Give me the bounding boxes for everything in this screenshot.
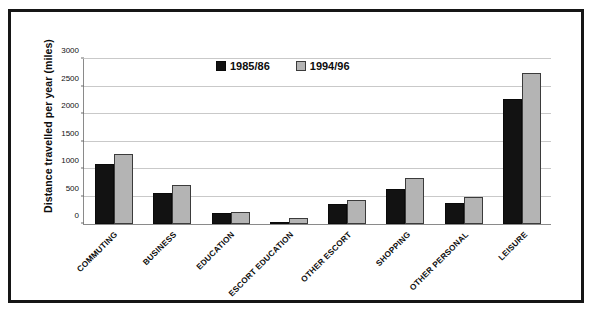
bar <box>405 178 424 224</box>
bar <box>328 204 347 224</box>
x-axis-tick-label: BUSINESS <box>141 230 178 267</box>
bar-groups <box>85 59 551 224</box>
y-tick-label: 2500 <box>61 73 79 82</box>
bar <box>445 203 464 224</box>
y-tick-label: 1000 <box>61 156 79 165</box>
x-axis-tick-label: COMMUTING <box>76 230 120 274</box>
bar <box>231 212 250 224</box>
bar-group <box>260 59 318 224</box>
bar-group <box>202 59 260 224</box>
y-tick-label: 3000 <box>61 46 79 55</box>
y-tick-label: 0 <box>75 211 79 220</box>
bar-group <box>435 59 493 224</box>
x-label-cell: OTHER ESCORT <box>318 228 377 308</box>
y-tick-mark <box>81 85 84 86</box>
chart-frame: Distance travelled per year (miles) 1985… <box>8 9 584 303</box>
x-axis-tick-label: SHOPPING <box>374 230 412 268</box>
bar <box>503 99 522 224</box>
bar <box>153 193 172 224</box>
plot-area: 050010001500200025003000 <box>83 59 551 225</box>
y-tick-mark <box>81 58 84 59</box>
bar <box>95 164 114 225</box>
y-tick-mark <box>81 140 84 141</box>
bar-group <box>318 59 376 224</box>
y-tick-label: 500 <box>66 183 79 192</box>
x-label-cell: LEISURE <box>494 228 553 308</box>
y-axis-title: Distance travelled per year (miles) <box>42 31 54 221</box>
bar-group <box>85 59 143 224</box>
bar <box>270 222 289 224</box>
x-axis-tick-label: LEISURE <box>497 230 529 262</box>
bar <box>386 189 405 224</box>
bar-group <box>143 59 201 224</box>
x-axis-tick-label: EDUCATION <box>195 230 237 272</box>
x-label-cell: OTHER PERSONAL <box>435 228 494 308</box>
y-tick-mark <box>81 195 84 196</box>
bar-group <box>493 59 551 224</box>
y-tick-mark <box>81 168 84 169</box>
bar <box>114 154 133 224</box>
bar <box>212 213 231 224</box>
bar <box>347 200 366 224</box>
chart-figure: Distance travelled per year (miles) 1985… <box>0 0 594 314</box>
x-label-cell: COMMUTING <box>84 228 143 308</box>
bar <box>172 185 191 224</box>
y-tick-mark <box>81 223 84 224</box>
x-axis-tick-labels: COMMUTINGBUSINESSEDUCATIONESCORT EDUCATI… <box>84 228 552 308</box>
x-label-cell: BUSINESS <box>143 228 202 308</box>
y-tick-label: 1500 <box>61 128 79 137</box>
y-tick-label: 2000 <box>61 101 79 110</box>
bar <box>464 197 483 225</box>
y-tick-mark <box>81 113 84 114</box>
bar-group <box>376 59 434 224</box>
bar <box>289 218 308 224</box>
bar <box>522 73 541 224</box>
